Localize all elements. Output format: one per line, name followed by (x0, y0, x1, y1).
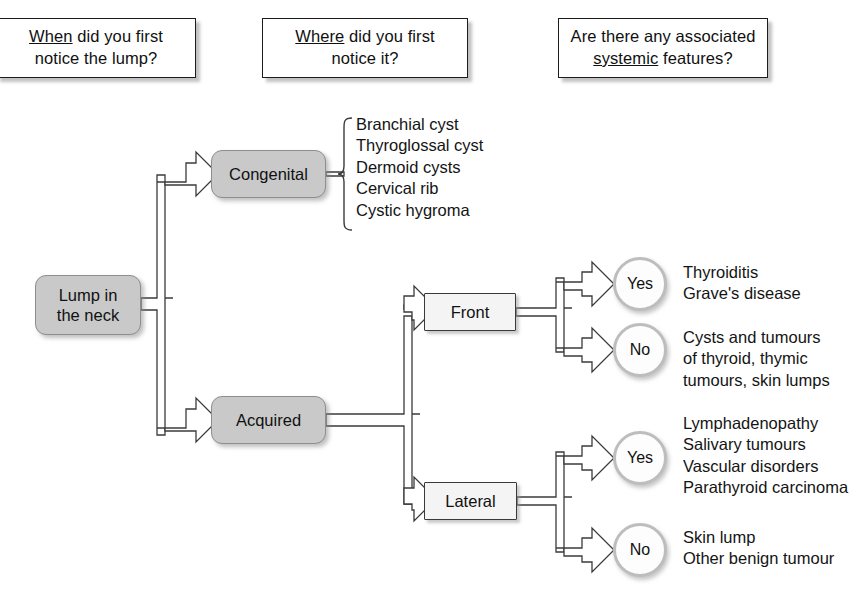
brace-congenital-list (338, 118, 352, 230)
question-box-when: When did you first notice the lump? (0, 18, 196, 78)
list-item: Vascular disorders (683, 456, 848, 477)
list-item: Cystic hygroma (356, 200, 483, 221)
node-lump-in-the-neck[interactable]: Lump in the neck (35, 275, 141, 335)
connector-lateral-trunk (517, 452, 572, 552)
connector-lateral-to-no (556, 528, 614, 572)
node-congenital[interactable]: Congenital (211, 150, 326, 198)
question-when-line2: notice the lump? (35, 48, 158, 70)
connector-root-to-acquired (157, 398, 218, 442)
flowchart-canvas: When did you first notice the lump? Wher… (0, 0, 859, 601)
question-when-line1: When did you first (29, 26, 163, 48)
list-item: Dermoid cysts (356, 157, 483, 178)
question-where-line2: notice it? (331, 48, 398, 70)
list-item: Cervical rib (356, 178, 483, 199)
outcome-list-lateral-yes: Lymphadenopathy Salivary tumours Vascula… (683, 413, 848, 499)
question-systemic-line2: systemic features? (593, 48, 732, 70)
question-systemic-keyword: systemic (593, 49, 658, 67)
node-acquired[interactable]: Acquired (211, 396, 326, 444)
connector-root-trunk (141, 175, 173, 435)
outcome-list-front-yes: Thyroiditis Grave's disease (683, 262, 801, 305)
connector-lateral-to-yes (556, 436, 614, 480)
circle-front-yes[interactable]: Yes (613, 257, 667, 311)
circle-lateral-yes[interactable]: Yes (613, 431, 667, 485)
list-item: Salivary tumours (683, 434, 848, 455)
list-item: Grave's disease (683, 283, 801, 304)
question-systemic-line1: Are there any associated (571, 26, 756, 48)
connector-front-trunk (516, 278, 572, 352)
question-when-keyword: When (29, 27, 73, 45)
connector-front-to-no (556, 328, 614, 372)
circle-lateral-no[interactable]: No (613, 523, 667, 577)
circle-front-no[interactable]: No (613, 323, 667, 377)
question-when-line1-rest: did you first (73, 27, 163, 45)
connector-front-to-yes (556, 262, 614, 306)
question-systemic-line2-rest: features? (658, 49, 732, 67)
outcome-list-lateral-no: Skin lump Other benign tumour (683, 527, 834, 570)
list-item: Thyroiditis (683, 262, 801, 283)
question-where-line1: Where did you first (295, 26, 434, 48)
question-where-line1-rest: did you first (344, 27, 434, 45)
list-item: Thyroglossal cyst (356, 135, 483, 156)
list-item: Lymphadenopathy (683, 413, 848, 434)
list-item: tumours, skin lumps (683, 370, 830, 391)
node-front[interactable]: Front (424, 293, 516, 331)
list-item: of thyroid, thymic (683, 348, 830, 369)
connector-root-to-congenital (157, 152, 218, 196)
outcome-list-congenital: Branchial cyst Thyroglossal cyst Dermoid… (356, 114, 483, 221)
question-box-where: Where did you first notice it? (262, 18, 468, 78)
connector-acquired-trunk (326, 316, 420, 504)
question-where-keyword: Where (295, 27, 344, 45)
list-item: Parathyroid carcinoma (683, 477, 848, 498)
list-item: Skin lump (683, 527, 834, 548)
node-lateral[interactable]: Lateral (424, 482, 517, 520)
list-item: Other benign tumour (683, 548, 834, 569)
question-box-systemic: Are there any associated systemic featur… (558, 18, 768, 78)
outcome-list-front-no: Cysts and tumours of thyroid, thymic tum… (683, 327, 830, 391)
list-item: Cysts and tumours (683, 327, 830, 348)
connector-acquired-to-front (404, 305, 412, 309)
list-item: Branchial cyst (356, 114, 483, 135)
connector-congenital-stub (326, 172, 344, 176)
